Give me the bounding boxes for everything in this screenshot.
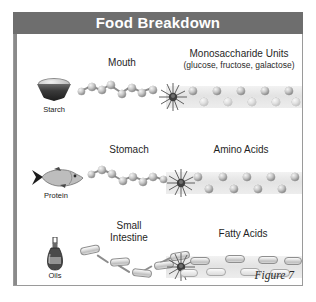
source-label-protein: Protein — [30, 190, 82, 201]
oil-bottle-icon — [46, 237, 62, 269]
source-label-starch: Starch — [30, 104, 78, 115]
product-label-fatty-acids: Fatty Acids — [198, 228, 288, 239]
food-breakdown-figure: Food Breakdown Starch — [0, 0, 316, 302]
figure-canvas: Starch — [13, 34, 303, 286]
fish-icon — [30, 166, 84, 188]
product-sublabel-monosaccharide-units: (glucose, fructose, galactose) — [172, 60, 303, 71]
process-label-mouth: Mouth — [86, 57, 158, 68]
bowl-of-starch-icon — [37, 78, 71, 102]
figure-caption: Figure 7 — [255, 269, 295, 281]
product-label-amino-acids: Amino Acids — [196, 144, 286, 155]
figure-frame: Food Breakdown Starch — [13, 12, 303, 286]
process-label-small-intestine-line2: Intestine — [92, 232, 166, 243]
process-label-small-intestine-line1: Small — [92, 220, 166, 231]
page-title: Food Breakdown — [13, 12, 303, 34]
starburst-icon-carbohydrate — [158, 82, 188, 112]
product-label-monosaccharide-units: Monosaccharide Units — [176, 48, 302, 59]
source-label-oils: Oils — [34, 270, 76, 281]
process-label-stomach: Stomach — [92, 144, 166, 155]
starburst-icon-protein — [166, 168, 196, 198]
left-accent-rail — [14, 34, 17, 286]
figure-title-bar: Food Breakdown — [13, 12, 303, 34]
